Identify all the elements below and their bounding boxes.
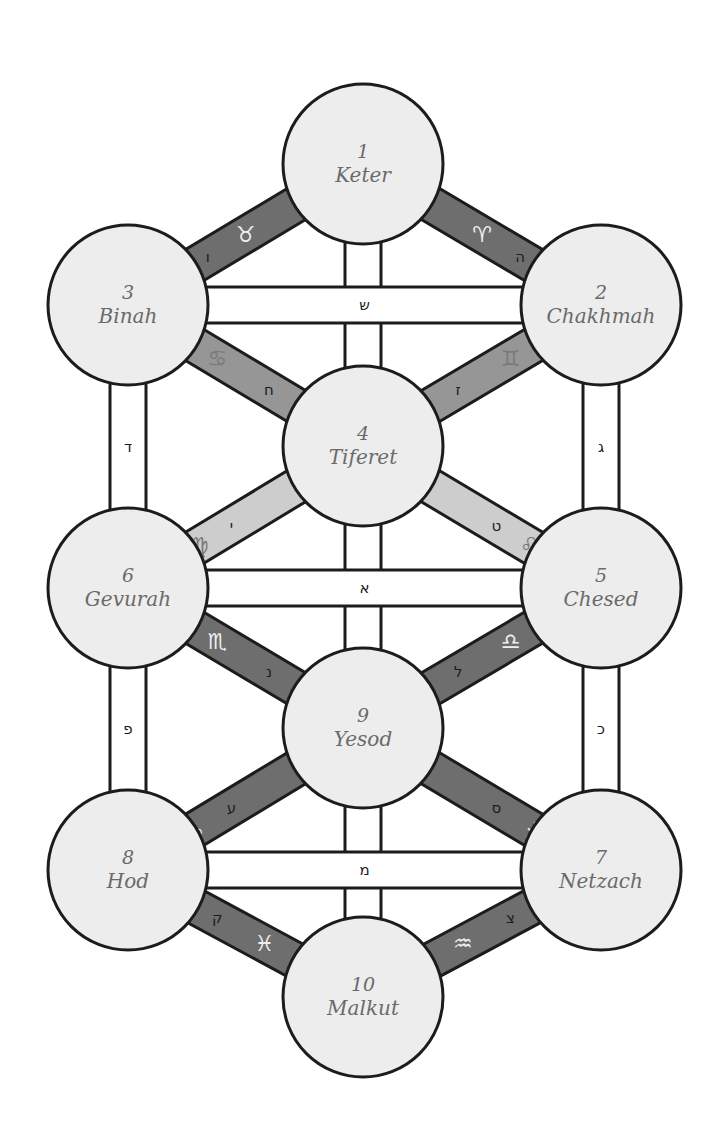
sephirah-number: 1 — [357, 140, 369, 162]
hebrew-letter-label: ז — [456, 381, 461, 399]
sephirah-number: 2 — [594, 281, 607, 303]
sephirah-name: Malkut — [326, 996, 400, 1020]
zodiac-sign-icon: ♒ — [453, 931, 473, 956]
sephirah-name: Hod — [106, 869, 149, 893]
zodiac-sign-icon: ♎ — [501, 629, 521, 654]
sephirah-binah: 3Binah — [48, 225, 208, 385]
sephirah-netzach: 7Netzach — [521, 790, 681, 950]
hebrew-letter-label: מ — [359, 861, 369, 879]
sephirah-number: 6 — [122, 564, 134, 586]
sephirah-keter: 1Keter — [283, 84, 443, 244]
zodiac-sign-icon: ♏ — [207, 629, 227, 654]
zodiac-sign-icon: ♓ — [254, 931, 274, 956]
hebrew-letter-label: ה — [515, 248, 525, 266]
hebrew-letter-label: ל — [454, 663, 463, 681]
tree-of-life-diagram: בשגדראכפתמה♈ו♉ז♊ח♋ט♌י♍ל♎נ♏ס♐ע♑צ♒ק♓ 1Kete… — [0, 0, 723, 1147]
sephirah-yesod: 9Yesod — [283, 648, 443, 808]
hebrew-letter-label: ג — [598, 438, 604, 456]
sephirah-number: 10 — [351, 973, 375, 995]
sephirah-name: Netzach — [558, 869, 643, 893]
sephirah-name: Chakhmah — [547, 304, 656, 328]
sephirah-number: 4 — [356, 422, 369, 444]
sephirah-number: 3 — [122, 281, 134, 303]
hebrew-letter-label: צ — [506, 909, 515, 927]
hebrew-letter-label: ח — [264, 381, 274, 399]
sephirah-name: Chesed — [564, 587, 639, 611]
zodiac-sign-icon: ♊ — [501, 346, 521, 371]
hebrew-letter-label: פ — [123, 720, 132, 738]
sephirah-chakhmah: 2Chakhmah — [521, 225, 681, 385]
hebrew-letter-label: ד — [124, 438, 132, 456]
sephirah-number: 9 — [357, 704, 369, 726]
hebrew-letter-label: א — [359, 579, 369, 597]
hebrew-letter-label: ט — [491, 517, 501, 535]
sephirah-name: Gevurah — [85, 587, 171, 611]
hebrew-letter-label: ש — [359, 296, 370, 314]
sephirah-number: 5 — [595, 564, 607, 586]
zodiac-sign-icon: ♋ — [207, 346, 227, 371]
hebrew-letter-label: נ — [266, 663, 272, 681]
hebrew-letter-label: י — [230, 517, 233, 535]
sephirah-hod: 8Hod — [48, 790, 208, 950]
zodiac-sign-icon: ♈ — [472, 222, 492, 247]
sephirah-name: Keter — [334, 163, 392, 187]
sephirah-name: Tiferet — [329, 445, 398, 469]
sephirah-gevurah: 6Gevurah — [48, 508, 208, 668]
sephirah-chesed: 5Chesed — [521, 508, 681, 668]
sephirah-name: Binah — [98, 304, 158, 328]
hebrew-letter-label: ו — [206, 248, 210, 266]
sephirah-number: 8 — [122, 846, 134, 868]
hebrew-letter-label: כ — [597, 720, 605, 738]
zodiac-sign-icon: ♉ — [236, 222, 256, 247]
sephirah-name: Yesod — [334, 727, 392, 751]
sephirah-malkut: 10Malkut — [283, 917, 443, 1077]
sephirah-tiferet: 4Tiferet — [283, 366, 443, 526]
hebrew-letter-label: ע — [227, 799, 236, 817]
sephirah-number: 7 — [595, 846, 608, 868]
hebrew-letter-label: ק — [212, 909, 223, 927]
hebrew-letter-label: ס — [491, 799, 501, 817]
